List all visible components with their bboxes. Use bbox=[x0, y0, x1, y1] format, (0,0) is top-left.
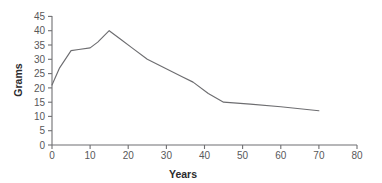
y-tick-label-15: 15 bbox=[34, 97, 46, 108]
x-tick-label-10: 10 bbox=[85, 150, 97, 161]
y-tick-label-45: 45 bbox=[34, 11, 46, 22]
x-axis-tick-labels: 0 10 20 30 40 50 60 70 80 bbox=[49, 150, 363, 161]
x-tick-label-0: 0 bbox=[49, 150, 55, 161]
y-tick-label-40: 40 bbox=[34, 25, 46, 36]
x-tick-label-30: 30 bbox=[161, 150, 173, 161]
y-tick-label-10: 10 bbox=[34, 111, 46, 122]
x-axis-title: Years bbox=[169, 168, 197, 180]
x-tick-label-80: 80 bbox=[351, 150, 363, 161]
x-axis-group: 0 10 20 30 40 50 60 70 80 bbox=[49, 145, 363, 161]
y-axis-group: 0 5 10 15 20 25 30 35 40 45 bbox=[34, 11, 52, 151]
x-tick-label-20: 20 bbox=[123, 150, 135, 161]
y-tick-label-20: 20 bbox=[34, 83, 46, 94]
y-tick-label-30: 30 bbox=[34, 54, 46, 65]
line-chart: 0 5 10 15 20 25 30 35 40 45 bbox=[0, 0, 382, 183]
y-axis-ticks bbox=[48, 16, 52, 145]
y-tick-label-0: 0 bbox=[39, 140, 45, 151]
x-tick-label-60: 60 bbox=[275, 150, 287, 161]
x-tick-label-40: 40 bbox=[199, 150, 211, 161]
x-tick-label-50: 50 bbox=[237, 150, 249, 161]
y-tick-label-35: 35 bbox=[34, 40, 46, 51]
y-tick-label-5: 5 bbox=[39, 125, 45, 136]
chart-canvas: 0 5 10 15 20 25 30 35 40 45 bbox=[0, 0, 382, 183]
x-axis-ticks bbox=[52, 145, 357, 149]
y-axis-title: Grams bbox=[12, 63, 24, 96]
plot-area bbox=[52, 31, 319, 111]
data-series-line-grams bbox=[52, 31, 319, 111]
y-tick-label-25: 25 bbox=[34, 68, 46, 79]
y-axis-tick-labels: 0 5 10 15 20 25 30 35 40 45 bbox=[34, 11, 46, 151]
x-tick-label-70: 70 bbox=[313, 150, 325, 161]
